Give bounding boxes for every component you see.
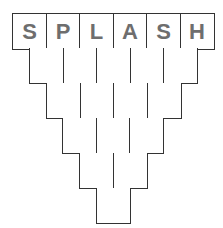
blank-cell[interactable]: [130, 48, 165, 84]
pyramid-row-2: [29, 48, 198, 84]
blank-cell[interactable]: [62, 118, 97, 154]
word-pyramid-puzzle: S P L A S H: [0, 0, 223, 228]
letter-cell: A: [113, 13, 148, 50]
blank-cell[interactable]: [163, 48, 198, 84]
letter-cell: P: [46, 13, 81, 50]
blank-cell[interactable]: [113, 83, 148, 119]
blank-cell[interactable]: [96, 188, 131, 224]
blank-cell[interactable]: [96, 48, 131, 84]
pyramid-row-1: S P L A S H: [12, 13, 215, 49]
blank-cell[interactable]: [63, 48, 98, 84]
pyramid-row-6: [96, 188, 131, 224]
pyramid-row-5: [79, 153, 148, 189]
blank-cell[interactable]: [80, 83, 115, 119]
blank-cell[interactable]: [129, 118, 164, 154]
blank-cell[interactable]: [46, 83, 81, 119]
pyramid-row-3: [46, 83, 182, 119]
blank-cell[interactable]: [147, 83, 182, 119]
blank-cell[interactable]: [29, 48, 64, 84]
letter-cell: L: [79, 13, 114, 50]
letter-cell: S: [12, 13, 47, 50]
blank-cell[interactable]: [96, 118, 131, 154]
blank-cell[interactable]: [79, 153, 114, 189]
blank-cell[interactable]: [113, 153, 148, 189]
letter-cell: S: [146, 13, 181, 50]
letter-cell: H: [180, 13, 215, 50]
pyramid-row-4: [62, 118, 164, 154]
